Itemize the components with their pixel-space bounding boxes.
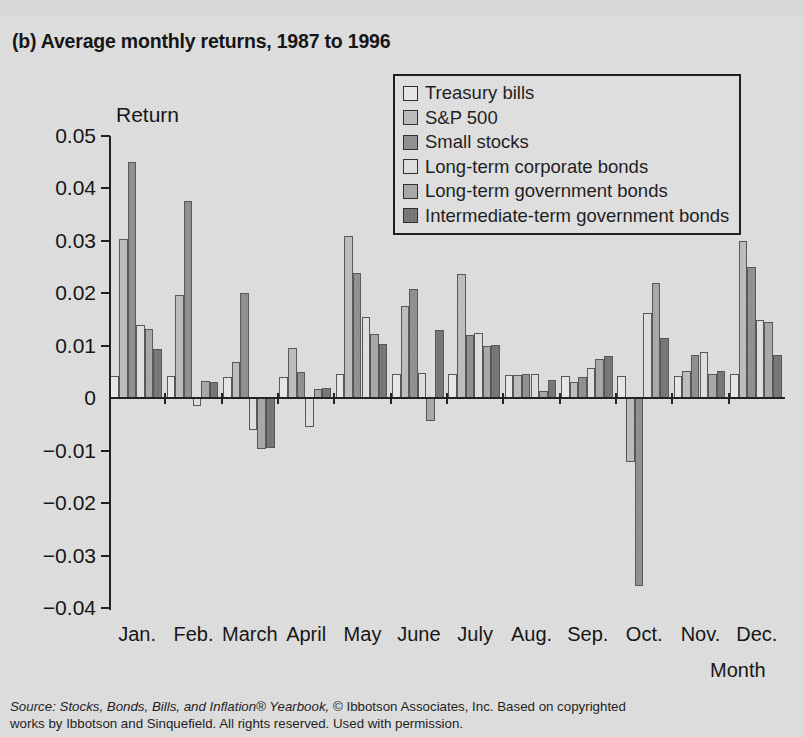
bar (370, 334, 379, 398)
x-axis-tick-label: April (286, 623, 326, 646)
x-axis-tick-label: June (397, 623, 440, 646)
x-axis-tick (615, 393, 617, 404)
bar (210, 382, 219, 398)
bar (249, 398, 258, 429)
x-axis-tick-label: March (222, 623, 278, 646)
x-axis-tick-label: May (344, 623, 382, 646)
bar (660, 338, 669, 398)
bar (136, 325, 145, 398)
bar (682, 371, 691, 398)
bar (426, 398, 435, 421)
bar (379, 344, 388, 399)
x-axis-tick-label: Oct. (626, 623, 663, 646)
x-axis-tick-label: Aug. (511, 623, 552, 646)
bar (362, 317, 371, 398)
bar (522, 374, 531, 398)
bar (128, 162, 137, 398)
bar (110, 376, 119, 398)
y-axis-tick-label: 0.01 (0, 334, 96, 358)
bar (418, 373, 427, 399)
source-line-1: Source: Stocks, Bonds, Bills, and Inflat… (10, 698, 800, 715)
x-axis-tick (277, 393, 279, 404)
y-axis-line (109, 136, 111, 610)
x-axis-tick (333, 393, 335, 404)
bar (153, 349, 162, 398)
bar (401, 306, 410, 398)
legend-swatch-icon (403, 184, 418, 199)
bar (240, 293, 249, 398)
bar (353, 273, 362, 398)
x-axis-tick-label: Sep. (567, 623, 608, 646)
legend-label: Long-term corporate bonds (425, 158, 648, 177)
x-axis-tick-label: July (457, 623, 493, 646)
bar (232, 362, 241, 399)
x-axis-tick (446, 393, 448, 404)
legend-swatch-icon (403, 86, 418, 101)
legend-label: Small stocks (425, 133, 529, 152)
bar (305, 398, 314, 427)
x-axis-tick (221, 393, 223, 404)
bar (643, 313, 652, 398)
legend-item-3: Long-term corporate bonds (403, 155, 729, 180)
legend-label: Treasury bills (425, 84, 534, 103)
bar (448, 374, 457, 398)
source-line-2: works by Ibbotson and Sinquefield. All r… (10, 715, 800, 732)
y-axis-tick-label: 0.04 (0, 176, 96, 200)
source-note: Source: Stocks, Bonds, Bills, and Inflat… (10, 698, 800, 732)
bar (466, 335, 475, 398)
bar (691, 355, 700, 399)
y-axis-title: Return (116, 103, 179, 127)
bar (266, 398, 275, 447)
bar (344, 236, 353, 399)
bar (474, 333, 483, 399)
x-axis-tick (502, 393, 504, 404)
bar (674, 376, 683, 398)
bar (561, 376, 570, 398)
y-axis-tick-label: 0.05 (0, 124, 96, 148)
bar (167, 376, 176, 398)
bar (119, 239, 128, 398)
bar (193, 398, 202, 406)
bar (483, 346, 492, 398)
bar (279, 377, 288, 398)
bar (617, 376, 626, 398)
bar (578, 377, 587, 398)
bar (587, 368, 596, 398)
chart-legend: Treasury billsS&P 500Small stocksLong-te… (393, 74, 741, 235)
bar (764, 322, 773, 398)
legend-swatch-icon (403, 208, 418, 223)
bar (184, 201, 193, 398)
bar (747, 267, 756, 398)
x-axis-tick-label: Dec. (736, 623, 777, 646)
bar (392, 374, 401, 398)
bar (730, 374, 739, 398)
bar (548, 380, 557, 398)
bar (739, 241, 748, 398)
x-axis-tick (671, 393, 673, 404)
x-axis-title: Month (710, 659, 766, 682)
legend-swatch-icon (403, 135, 418, 150)
x-axis-tick-label: Jan. (118, 623, 156, 646)
x-axis-tick-label: Nov. (681, 623, 721, 646)
bar (595, 359, 604, 398)
x-axis-tick (728, 393, 730, 404)
bar (491, 345, 500, 398)
bar (570, 382, 579, 398)
legend-label: S&P 500 (425, 109, 498, 128)
chart-page: (b) Average monthly returns, 1987 to 199… (0, 0, 804, 737)
bar (513, 375, 522, 398)
x-axis-tick (164, 393, 166, 404)
bar (505, 375, 514, 398)
bar (756, 320, 765, 399)
bar (201, 381, 210, 398)
bar (700, 352, 709, 398)
bar (297, 372, 306, 398)
bar (336, 374, 345, 398)
y-axis-tick-label: −0.04 (0, 596, 96, 620)
y-axis-tick-label: −0.01 (0, 439, 96, 463)
x-axis-tick (390, 393, 392, 404)
bar (175, 295, 184, 398)
legend-item-4: Long-term government bonds (403, 179, 729, 204)
legend-item-5: Intermediate-term government bonds (403, 204, 729, 229)
bar (223, 377, 232, 398)
